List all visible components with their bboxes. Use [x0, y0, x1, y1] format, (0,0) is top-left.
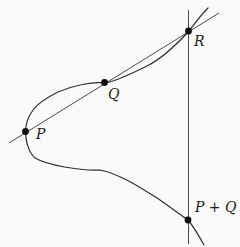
point-R-label: R: [193, 33, 205, 49]
point-R-dot: [185, 28, 192, 35]
point-Q-label: Q: [108, 86, 120, 102]
point-Q-dot: [101, 79, 108, 86]
point-PplusQ-label: P + Q: [194, 199, 237, 215]
elliptic-curve-figure: P Q R P + Q: [0, 0, 240, 247]
point-PplusQ-dot: [185, 217, 192, 224]
point-P-label: P: [35, 126, 46, 142]
point-P-dot: [22, 128, 29, 135]
diagram-canvas: P Q R P + Q: [0, 0, 240, 247]
